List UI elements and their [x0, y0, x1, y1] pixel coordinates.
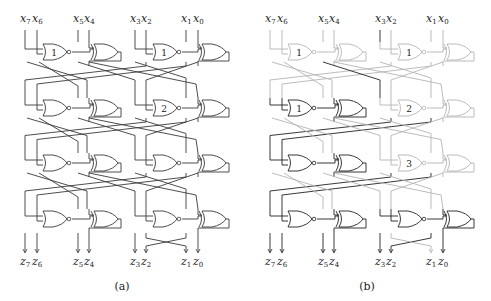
xor-gate [336, 100, 363, 116]
gate-number: 1 [296, 48, 302, 58]
input-label: x7 [265, 12, 276, 26]
input-label: x0 [193, 12, 204, 26]
input-label: x6 [32, 12, 43, 26]
xor-gate [199, 211, 226, 227]
nor-gate: 1 [288, 44, 316, 60]
output-labels: z7z6z5z4z3z2z1z0 [19, 255, 203, 269]
panel-b: x7x6x5x4x3x2x1x0z7z6z5z4z3z2z1z0(b)11123 [264, 12, 474, 293]
output-label: z6 [276, 255, 288, 269]
panel-a: x7x6x5x4x3x2x1x0z7z6z5z4z3z2z1z0(a)112 [19, 12, 229, 293]
output-arrows [23, 233, 200, 253]
output-label: z3 [129, 255, 140, 269]
input-label: x7 [20, 12, 31, 26]
nor-gate [43, 100, 71, 116]
input-label: x5 [318, 12, 329, 26]
gate-number: 2 [406, 104, 412, 114]
output-label: z5 [72, 255, 83, 269]
circuit-figure: x7x6x5x4x3x2x1x0z7z6z5z4z3z2z1z0(a)112x7… [0, 0, 491, 301]
input-labels: x7x6x5x4x3x2x1x0 [20, 12, 204, 26]
nor-gate: 1 [398, 44, 426, 60]
nor-gate: 1 [43, 44, 71, 60]
panel-caption: (a) [114, 280, 129, 293]
input-label: x0 [438, 12, 449, 26]
output-label: z1 [180, 255, 191, 269]
output-label: z4 [83, 255, 95, 269]
gate-number: 1 [296, 104, 302, 114]
output-label: z2 [140, 255, 151, 269]
output-labels: z7z6z5z4z3z2z1z0 [264, 255, 448, 269]
input-label: x1 [181, 12, 192, 26]
nor-gate [398, 211, 426, 227]
input-label: x2 [386, 12, 397, 26]
input-label: x3 [375, 12, 386, 26]
output-label: z7 [264, 255, 275, 269]
nor-gate: 1 [153, 44, 181, 60]
xor-gate [336, 44, 363, 60]
output-label: z0 [192, 255, 203, 269]
output-label: z2 [385, 255, 396, 269]
nor-gate [153, 155, 181, 171]
xor-gate [199, 100, 226, 116]
output-label: z0 [437, 255, 448, 269]
input-label: x4 [84, 12, 95, 26]
xor-gate [444, 100, 471, 116]
xor-gate [444, 155, 471, 171]
input-label: x5 [73, 12, 84, 26]
wires [25, 30, 229, 233]
xor-gate [91, 100, 118, 116]
input-label: x1 [426, 12, 437, 26]
nor-gate: 2 [398, 100, 426, 116]
input-label: x4 [329, 12, 340, 26]
output-label: z3 [374, 255, 385, 269]
input-label: x6 [277, 12, 288, 26]
wires [270, 30, 474, 233]
input-label: x2 [141, 12, 152, 26]
nor-gate [288, 211, 316, 227]
nor-gate [43, 155, 71, 171]
gate-number: 3 [406, 159, 412, 169]
xor-gate [444, 44, 471, 60]
output-label: z4 [328, 255, 340, 269]
nor-gate [288, 155, 316, 171]
nor-gate: 1 [288, 100, 316, 116]
output-label: z7 [19, 255, 30, 269]
xor-gate [199, 155, 226, 171]
gate-number: 1 [51, 48, 57, 58]
gate-number: 1 [406, 48, 412, 58]
xor-gate [91, 44, 118, 60]
gate-number: 1 [161, 48, 167, 58]
nor-gate: 3 [398, 155, 426, 171]
xor-gate [199, 44, 226, 60]
xor-gate [444, 211, 471, 227]
input-labels: x7x6x5x4x3x2x1x0 [265, 12, 449, 26]
nor-gate [43, 211, 71, 227]
xor-gate [336, 155, 363, 171]
xor-gate [91, 211, 118, 227]
output-label: z1 [425, 255, 436, 269]
output-label: z5 [317, 255, 328, 269]
output-label: z6 [31, 255, 43, 269]
panel-caption: (b) [359, 280, 375, 293]
nor-gate: 2 [153, 100, 181, 116]
xor-gate [336, 211, 363, 227]
nor-gate [153, 211, 181, 227]
gate-number: 2 [161, 104, 167, 114]
input-label: x3 [130, 12, 141, 26]
xor-gate [91, 155, 118, 171]
output-arrows [268, 233, 445, 253]
